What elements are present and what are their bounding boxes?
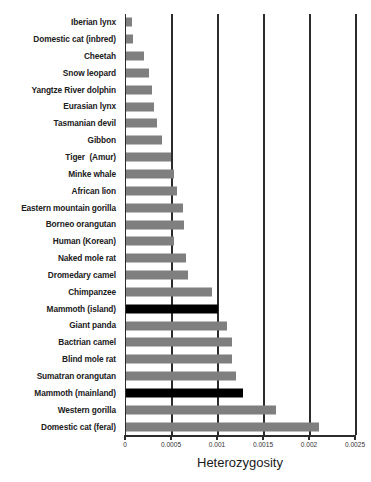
bar [126, 203, 183, 212]
bar [126, 52, 144, 61]
bar-row [126, 166, 356, 183]
x-tick-label: 0.002 [301, 441, 318, 448]
bar-row [126, 199, 356, 216]
category-label: Western gorilla [0, 401, 120, 418]
x-tick-mark [354, 435, 355, 440]
category-label: Domestic cat (inbred) [0, 31, 120, 48]
category-label: Naked mole rat [0, 250, 120, 267]
bar [126, 372, 236, 381]
x-tick-mark [124, 435, 125, 440]
category-label: Yangtze River dolphin [0, 81, 120, 98]
heterozygosity-bar-chart: Iberian lynxDomestic cat (inbred)Cheetah… [0, 0, 371, 482]
bar [126, 136, 162, 145]
category-label: Snow leopard [0, 65, 120, 82]
x-tick-label: 0 [123, 441, 127, 448]
bar [126, 304, 218, 313]
bar [126, 119, 157, 128]
bar-row [126, 182, 356, 199]
category-label: Tasmanian devil [0, 115, 120, 132]
bar-row [126, 149, 356, 166]
category-label: Eastern mountain gorilla [0, 199, 120, 216]
category-label: Cheetah [0, 48, 120, 65]
bar-row [126, 401, 356, 418]
category-label: Domestic cat (feral) [0, 418, 120, 435]
bar [126, 422, 319, 431]
bar [126, 254, 186, 263]
bar-row [126, 334, 356, 351]
x-tick-mark [170, 435, 171, 440]
x-axis-title: Heterozygosity [125, 455, 355, 470]
bar-row [126, 233, 356, 250]
category-label: Dromedary camel [0, 267, 120, 284]
bar-series [126, 14, 356, 435]
bar-row [126, 81, 356, 98]
x-tick-mark [262, 435, 263, 440]
bar [126, 68, 149, 77]
bar [126, 170, 174, 179]
bar-row [126, 385, 356, 402]
category-label: Minke whale [0, 166, 120, 183]
bar-row [126, 115, 356, 132]
category-label: Borneo orangutan [0, 216, 120, 233]
plot-area [125, 14, 356, 435]
bar [126, 321, 227, 330]
category-label: Giant panda [0, 317, 120, 334]
category-label: Mammoth (island) [0, 300, 120, 317]
x-tick-label: 0.0005 [161, 441, 181, 448]
category-label: Tiger (Amur) [0, 149, 120, 166]
bar-row [126, 267, 356, 284]
bar [126, 338, 232, 347]
category-label: Chimpanzee [0, 284, 120, 301]
x-tick-mark [216, 435, 217, 440]
bar-row [126, 317, 356, 334]
bar-row [126, 216, 356, 233]
bar-row [126, 418, 356, 435]
bar-row [126, 351, 356, 368]
bar [126, 85, 152, 94]
bar [126, 355, 232, 364]
category-label: Human (Korean) [0, 233, 120, 250]
category-label: Mammoth (mainland) [0, 385, 120, 402]
bar-row [126, 98, 356, 115]
bar [126, 153, 171, 162]
bar [126, 271, 188, 280]
bar [126, 405, 276, 414]
category-label: Eurasian lynx [0, 98, 120, 115]
bar-row [126, 284, 356, 301]
bar [126, 186, 177, 195]
bar-row [126, 368, 356, 385]
category-label: African lion [0, 182, 120, 199]
x-tick-label: 0.0015 [253, 441, 273, 448]
category-label: Bactrian camel [0, 334, 120, 351]
category-label: Sumatran orangutan [0, 368, 120, 385]
bar [126, 102, 154, 111]
bar-row [126, 300, 356, 317]
bar-row [126, 65, 356, 82]
category-label: Gibbon [0, 132, 120, 149]
bar [126, 220, 184, 229]
bar [126, 35, 133, 44]
bar-row [126, 132, 356, 149]
x-axis-line [125, 435, 355, 437]
x-tick-mark [308, 435, 309, 440]
bar-row [126, 250, 356, 267]
category-axis-labels: Iberian lynxDomestic cat (inbred)Cheetah… [0, 14, 120, 435]
x-tick-label: 0.0025 [345, 441, 365, 448]
bar [126, 237, 174, 246]
bar [126, 18, 132, 27]
x-tick-label: 0.001 [209, 441, 226, 448]
category-label: Blind mole rat [0, 351, 120, 368]
category-label: Iberian lynx [0, 14, 120, 31]
bar [126, 388, 243, 397]
bar [126, 287, 212, 296]
bar-row [126, 14, 356, 31]
bar-row [126, 48, 356, 65]
bar-row [126, 31, 356, 48]
